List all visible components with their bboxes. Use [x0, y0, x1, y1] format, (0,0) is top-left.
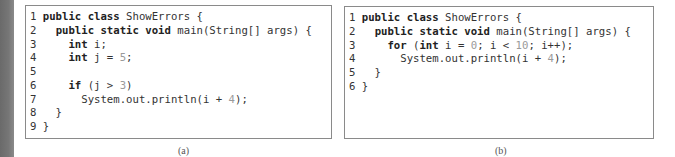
code-text: ShowErrors { — [439, 11, 522, 24]
code-text — [43, 38, 69, 51]
code-text: System.out.println(i + — [43, 93, 229, 106]
caption-b: (b) — [495, 145, 507, 156]
line-number: 1 — [349, 11, 362, 24]
line-number: 3 — [30, 38, 43, 51]
line-number: 9 — [30, 120, 43, 133]
code-text — [362, 39, 388, 52]
keyword: for — [387, 39, 406, 52]
code-text: main(String[] args) { — [490, 25, 631, 38]
line-number: 4 — [30, 51, 43, 64]
code-text — [43, 51, 69, 64]
code-line: 6 } — [349, 80, 631, 94]
code-text: ; i < — [477, 39, 515, 52]
code-line: 5 } — [349, 66, 631, 80]
code-text — [43, 79, 69, 92]
code-text: ( — [407, 39, 420, 52]
code-block-a: 1 public class ShowErrors {2 public stat… — [30, 10, 312, 134]
code-line: 2 public static void main(String[] args)… — [349, 25, 631, 39]
code-text: j = — [88, 51, 120, 64]
keyword: static — [100, 24, 138, 37]
code-listing-b: 1 public class ShowErrors {2 public stat… — [344, 6, 654, 139]
code-text: } — [43, 106, 62, 119]
code-line: 7 System.out.println(i + 4); — [30, 93, 312, 107]
code-text — [362, 25, 375, 38]
keyword: static — [419, 25, 457, 38]
code-text: } — [362, 66, 381, 79]
line-number: 1 — [30, 10, 43, 23]
line-number: 5 — [30, 65, 43, 78]
code-text: } — [43, 120, 49, 133]
page-edge-strip — [0, 0, 14, 157]
keyword: int — [68, 51, 87, 64]
code-line: 3 int i; — [30, 38, 312, 52]
code-line: 3 for (int i = 0; i < 10; i++); — [349, 39, 631, 53]
code-text: ShowErrors { — [120, 10, 203, 23]
keyword: int — [68, 38, 87, 51]
code-text: ); — [235, 93, 248, 106]
code-line: 4 System.out.println(i + 4); — [349, 52, 631, 66]
keyword: public — [362, 11, 400, 24]
code-text: ) — [126, 79, 132, 92]
code-line: 5 — [30, 65, 312, 79]
caption-a: (a) — [178, 145, 189, 156]
code-line: 8 } — [30, 106, 312, 120]
code-text — [43, 24, 56, 37]
code-line: 1 public class ShowErrors { — [349, 11, 631, 25]
code-text: i = — [439, 39, 471, 52]
code-text: ; i++); — [528, 39, 573, 52]
code-line: 2 public static void main(String[] args)… — [30, 24, 312, 38]
code-text: i; — [88, 38, 107, 51]
code-block-b: 1 public class ShowErrors {2 public stat… — [349, 11, 631, 94]
code-listing-a: 1 public class ShowErrors {2 public stat… — [25, 5, 332, 139]
line-number: 3 — [349, 39, 362, 52]
line-number: 6 — [349, 80, 362, 93]
keyword: class — [88, 10, 120, 23]
line-number: 2 — [30, 24, 43, 37]
code-text: System.out.println(i + — [362, 52, 548, 65]
keyword: public — [43, 10, 81, 23]
code-text: (j > — [81, 79, 119, 92]
code-text: } — [362, 80, 368, 93]
line-number: 7 — [30, 93, 43, 106]
line-number: 6 — [30, 79, 43, 92]
code-text: ); — [554, 52, 567, 65]
code-line: 9 } — [30, 120, 312, 134]
keyword: void — [464, 25, 490, 38]
code-line: 4 int j = 5; — [30, 51, 312, 65]
line-number: 2 — [349, 25, 362, 38]
code-line: 1 public class ShowErrors { — [30, 10, 312, 24]
line-number: 8 — [30, 106, 43, 119]
line-number: 5 — [349, 66, 362, 79]
keyword: class — [407, 11, 439, 24]
numeric-literal: 10 — [516, 39, 529, 52]
code-text: ; — [126, 51, 132, 64]
keyword: public — [375, 25, 413, 38]
keyword: int — [419, 39, 438, 52]
line-number: 4 — [349, 52, 362, 65]
keyword: if — [68, 79, 81, 92]
code-line: 6 if (j > 3) — [30, 79, 312, 93]
keyword: public — [56, 24, 94, 37]
keyword: void — [145, 24, 171, 37]
code-text: main(String[] args) { — [171, 24, 312, 37]
